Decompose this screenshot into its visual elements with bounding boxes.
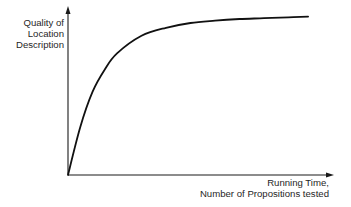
chart-figure: Quality of Location Description Running … [0, 0, 351, 207]
y-axis-label-line-3: Description [0, 39, 64, 50]
y-axis-label-line-1: Quality of [0, 17, 64, 28]
y-axis-label: Quality of Location Description [0, 17, 64, 50]
y-axis-label-line-2: Location [0, 28, 64, 39]
x-axis-label: Running Time, Number of Propositions tes… [200, 177, 329, 199]
x-axis-label-line-1: Running Time, [200, 177, 329, 188]
x-axis-label-line-2: Number of Propositions tested [200, 188, 329, 199]
quality-curve [68, 17, 308, 175]
y-axis-arrow-icon [66, 6, 71, 14]
